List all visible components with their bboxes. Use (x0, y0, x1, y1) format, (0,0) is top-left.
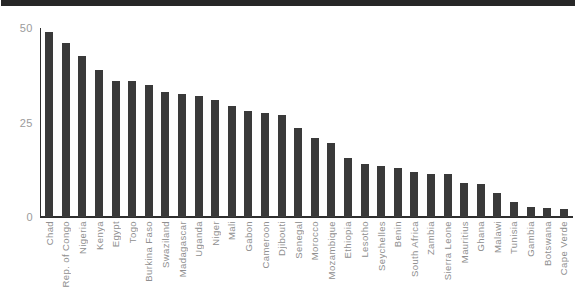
x-tick-cell: Zambia (423, 221, 440, 306)
x-tick-cell: Ethiopia (340, 221, 357, 306)
x-tick-cell: Seychelles (373, 221, 390, 306)
x-tick-label: Burkina Faso (143, 221, 154, 282)
bar (327, 143, 335, 217)
bar (543, 208, 551, 217)
bar (444, 174, 452, 217)
bar (493, 193, 501, 217)
x-tick-cell: Burkina Faso (141, 221, 158, 306)
x-tick-label: Sierra Leone (442, 221, 453, 280)
x-tick-label: Gabon (243, 221, 254, 252)
x-tick-label: Egypt (110, 221, 121, 247)
x-tick-label: Uganda (193, 221, 204, 257)
x-axis-labels: ChadRep. of CongoNigeriaKenyaEgyptTogoBu… (41, 221, 572, 306)
x-tick-cell: Gambia (522, 221, 539, 306)
bar (261, 113, 269, 217)
x-tick-label: Lesotho (359, 221, 370, 258)
x-tick-cell: Senegal (290, 221, 307, 306)
x-tick-label: Gambia (525, 221, 536, 257)
x-tick-label: Tunisia (508, 221, 519, 254)
bar (78, 56, 86, 217)
x-tick-cell: Cameroon (257, 221, 274, 306)
bar (510, 202, 518, 217)
bar (161, 92, 169, 217)
x-tick-cell: Egypt (107, 221, 124, 306)
bar (112, 81, 120, 217)
bar (344, 158, 352, 217)
bar (377, 166, 385, 217)
bar (477, 184, 485, 217)
bar (244, 111, 252, 217)
x-tick-cell: Chad (41, 221, 58, 306)
x-tick-label: Mali (226, 221, 237, 240)
bar (427, 174, 435, 217)
y-tick-label: 0 (26, 211, 33, 223)
x-tick-cell: Gabon (240, 221, 257, 306)
x-tick-cell: Madagascar (174, 221, 191, 306)
bar (278, 115, 286, 217)
y-axis-line (40, 28, 41, 217)
bar (410, 172, 418, 217)
x-tick-cell: Morocco (307, 221, 324, 306)
x-tick-label: Senegal (293, 221, 304, 259)
x-tick-label: Cameroon (260, 221, 271, 269)
x-tick-label: Swaziland (160, 221, 171, 268)
x-tick-cell: Ghana (472, 221, 489, 306)
y-tick-label: 50 (20, 22, 33, 34)
x-tick-label: Madagascar (177, 221, 188, 277)
x-tick-label: Zambia (425, 221, 436, 255)
x-tick-label: Malawi (492, 221, 503, 253)
bar (527, 207, 535, 217)
x-tick-cell: Malawi (489, 221, 506, 306)
bar (62, 43, 70, 217)
x-tick-cell: Mozambique (323, 221, 340, 306)
bar (394, 168, 402, 217)
x-tick-cell: Rep. of Congo (58, 221, 75, 306)
x-tick-label: Mozambique (326, 221, 337, 279)
x-tick-label: Seychelles (376, 221, 387, 271)
x-tick-cell: Nigeria (74, 221, 91, 306)
y-tick-label: 25 (20, 117, 33, 129)
x-tick-cell: Sierra Leone (439, 221, 456, 306)
x-tick-label: Kenya (94, 221, 105, 250)
bar (311, 138, 319, 217)
top-rule (1, 0, 575, 6)
bar (228, 106, 236, 218)
x-tick-label: Togo (127, 221, 138, 243)
bar (178, 94, 186, 217)
x-tick-cell: Swaziland (157, 221, 174, 306)
bar-chart-figure: 02550 ChadRep. of CongoNigeriaKenyaEgypt… (0, 0, 582, 306)
x-tick-cell: South Africa (406, 221, 423, 306)
bar (95, 70, 103, 217)
x-tick-cell: Mauritius (456, 221, 473, 306)
x-tick-cell: Lesotho (356, 221, 373, 306)
bar (460, 183, 468, 217)
x-tick-label: Benin (392, 221, 403, 247)
plot-area (41, 28, 572, 217)
x-tick-label: Ethiopia (342, 221, 353, 259)
bar (145, 85, 153, 217)
x-tick-label: Djibouti (276, 221, 287, 256)
x-tick-cell: Togo (124, 221, 141, 306)
x-tick-label: Niger (210, 221, 221, 246)
x-tick-label: Cape Verde (558, 221, 569, 275)
bar (361, 164, 369, 217)
bar (211, 100, 219, 217)
x-tick-label: South Africa (409, 221, 420, 277)
x-tick-label: Botswana (542, 221, 553, 266)
x-tick-label: Mauritius (459, 221, 470, 263)
x-tick-label: Morocco (309, 221, 320, 260)
x-tick-cell: Mali (224, 221, 241, 306)
x-tick-cell: Uganda (190, 221, 207, 306)
x-tick-cell: Kenya (91, 221, 108, 306)
x-tick-label: Chad (44, 221, 55, 245)
y-axis-tick-labels: 02550 (0, 28, 36, 217)
x-tick-label: Nigeria (77, 221, 88, 254)
x-tick-cell: Djibouti (273, 221, 290, 306)
bar (45, 32, 53, 217)
bar (195, 96, 203, 217)
x-tick-cell: Niger (207, 221, 224, 306)
x-tick-label: Rep. of Congo (60, 221, 71, 287)
x-tick-cell: Cape Verde (555, 221, 572, 306)
bar (560, 209, 568, 217)
x-tick-cell: Tunisia (506, 221, 523, 306)
